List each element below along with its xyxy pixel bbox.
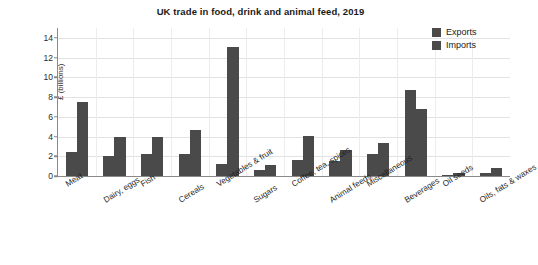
bar-group xyxy=(179,28,202,176)
bar-imports xyxy=(340,150,351,176)
bar-exports xyxy=(254,170,265,176)
bar-group xyxy=(442,28,465,176)
bar-imports xyxy=(416,109,427,176)
legend-label-exports: Exports xyxy=(446,27,477,37)
bar-group xyxy=(367,28,390,176)
bar-imports xyxy=(491,168,502,176)
y-axis-tick-mark xyxy=(54,116,58,118)
bar-exports xyxy=(141,154,152,176)
bar-group xyxy=(66,28,89,176)
y-axis-tick-mark xyxy=(54,77,58,79)
y-axis-tick-label: 8 xyxy=(48,92,53,102)
bar-group xyxy=(103,28,126,176)
y-axis-tick-label: 6 xyxy=(48,112,53,122)
bar-imports xyxy=(190,130,201,176)
bar-group xyxy=(254,28,277,176)
legend-swatch-icon xyxy=(432,41,441,50)
y-axis-tick-label: 12 xyxy=(44,53,53,63)
legend-item-exports: Exports xyxy=(432,27,477,37)
bar-imports xyxy=(303,136,314,176)
bar-imports xyxy=(77,102,88,176)
y-axis-tick-mark xyxy=(54,156,58,158)
chart-legend: Exports Imports xyxy=(432,27,477,50)
y-axis-label: £ (billions) xyxy=(56,64,65,100)
x-axis-tick-label: Sugars xyxy=(252,183,279,204)
bar-group xyxy=(405,28,428,176)
bar-imports xyxy=(227,47,238,176)
bar-exports xyxy=(480,173,491,176)
bar-group xyxy=(216,28,239,176)
legend-item-imports: Imports xyxy=(432,40,477,50)
bar-group xyxy=(292,28,315,176)
bar-group xyxy=(480,28,503,176)
bar-exports xyxy=(442,175,453,176)
bar-imports xyxy=(265,165,276,176)
chart-title: UK trade in food, drink and animal feed,… xyxy=(0,6,521,17)
y-axis-tick-label: 0 xyxy=(48,171,53,181)
legend-swatch-icon xyxy=(432,28,441,37)
y-axis-tick-mark xyxy=(54,57,58,59)
bar-imports xyxy=(114,137,125,176)
bar-exports xyxy=(66,152,77,176)
bar-exports xyxy=(405,90,416,176)
bar-exports xyxy=(103,156,114,176)
y-axis-tick-mark xyxy=(54,37,58,39)
bar-exports xyxy=(367,154,378,176)
bar-exports xyxy=(292,160,303,176)
bar-imports xyxy=(453,173,464,176)
bar-exports xyxy=(216,164,227,176)
x-axis-tick-label: Dairy, eggs xyxy=(102,175,141,204)
x-axis-tick-label: Beverages xyxy=(403,176,441,204)
y-axis-tick-label: 4 xyxy=(48,132,53,142)
legend-label-imports: Imports xyxy=(446,40,476,50)
bar-imports xyxy=(378,143,389,176)
y-axis-tick-label: 10 xyxy=(44,72,53,82)
bars-layer xyxy=(58,28,510,176)
bar-exports xyxy=(329,161,340,176)
y-axis-tick-label: 2 xyxy=(48,151,53,161)
plot-area: £ (billions) 02468101214 xyxy=(57,28,510,177)
x-axis-tick-label: Cereals xyxy=(177,182,206,205)
y-axis-tick-mark xyxy=(54,136,58,138)
y-axis-tick-mark xyxy=(54,175,58,177)
bar-imports xyxy=(152,137,163,176)
bar-group xyxy=(141,28,164,176)
bar-exports xyxy=(179,154,190,176)
bar-group xyxy=(329,28,352,176)
y-axis-tick-mark xyxy=(54,96,58,98)
y-axis-tick-label: 14 xyxy=(44,33,53,43)
